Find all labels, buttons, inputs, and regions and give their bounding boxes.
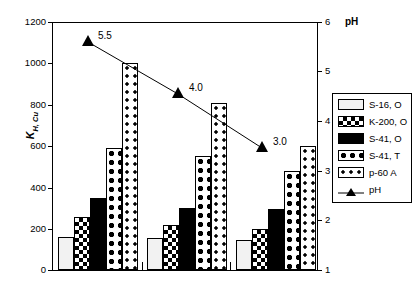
right-tick-2 — [318, 220, 322, 221]
white-swatch — [338, 99, 364, 110]
bar-group3-s41o — [268, 209, 284, 270]
group-separator-2 — [230, 262, 231, 271]
left-tick-label-1000: 1000 — [8, 58, 46, 68]
legend-label-s41t: S-41, T — [369, 150, 400, 161]
left-tick-600 — [48, 146, 52, 147]
chart-canvas: 1200 1000 800 600 400 200 0 KH, Cu 6 5 4… — [0, 0, 415, 295]
bar-group3-k200o — [252, 229, 268, 270]
bar-group1-s41t — [106, 148, 122, 270]
bar-group1-k200o — [74, 217, 90, 270]
ph-value-label-1: 5.5 — [98, 30, 112, 41]
left-tick-800 — [48, 105, 52, 106]
bar-group1-s16o — [58, 237, 74, 270]
left-axis-title-sub: H, Cu — [31, 112, 40, 132]
ph-value-label-3: 3.0 — [273, 136, 287, 147]
legend-item-s16o: S-16, O — [338, 98, 402, 111]
right-tick-6 — [318, 22, 322, 23]
bar-group2-s41t — [195, 156, 211, 270]
legend-item-s41t: S-41, T — [338, 149, 400, 162]
bottom-axis-line — [52, 270, 318, 271]
bar-group3-s16o — [236, 240, 252, 270]
legend-label-k200o: K-200, O — [369, 116, 407, 127]
legend-label-ph: pH — [369, 184, 381, 195]
left-tick-0 — [48, 270, 52, 271]
right-tick-label-1: 1 — [325, 265, 345, 275]
ph-marker-2 — [172, 87, 184, 98]
right-tick-label-5: 5 — [325, 66, 345, 76]
bar-group2-s16o — [147, 238, 163, 270]
top-frame-line — [52, 22, 318, 23]
right-tick-4 — [318, 121, 322, 122]
legend-label-s41o: S-41, O — [369, 133, 402, 144]
legend-label-s16o: S-16, O — [369, 99, 402, 110]
left-tick-label-0: 0 — [8, 265, 46, 275]
solid-black-swatch — [338, 133, 364, 144]
left-tick-label-400: 400 — [8, 183, 46, 193]
bar-group1-p60a — [122, 63, 138, 270]
legend-item-ph: pH — [338, 183, 381, 196]
left-axis-title: KH, Cu — [24, 81, 39, 171]
ph-marker-1 — [82, 35, 94, 46]
left-axis-line — [52, 22, 53, 271]
left-tick-1000 — [48, 63, 52, 64]
group-separator-1 — [142, 262, 143, 271]
bar-group1-s41o — [90, 198, 106, 270]
left-tick-label-1200: 1200 — [8, 17, 46, 27]
right-tick-label-6: 6 — [325, 17, 345, 27]
legend-box: S-16, O K-200, O S-41, O S-41, T p-60 A — [332, 93, 412, 203]
left-tick-1200 — [48, 22, 52, 23]
left-tick-label-200: 200 — [8, 224, 46, 234]
ph-value-label-2: 4.0 — [189, 82, 203, 93]
bar-group3-s41t — [284, 171, 300, 270]
legend-item-k200o: K-200, O — [338, 115, 407, 128]
legend-label-p60a: p-60 A — [369, 167, 396, 178]
right-tick-1 — [318, 270, 322, 271]
checker-swatch — [338, 116, 364, 127]
left-axis-title-main: K — [24, 132, 36, 140]
ph-polyline — [88, 42, 262, 148]
left-tick-200 — [48, 229, 52, 230]
bar-group2-p60a — [211, 103, 227, 270]
right-tick-5 — [318, 71, 322, 72]
small-dot-swatch — [338, 167, 364, 178]
right-axis-line — [317, 22, 318, 271]
bar-group2-k200o — [163, 225, 179, 270]
left-tick-400 — [48, 188, 52, 189]
legend-item-s41o: S-41, O — [338, 132, 402, 145]
right-tick-3 — [318, 171, 322, 172]
legend-item-p60a: p-60 A — [338, 166, 396, 179]
bar-group2-s41o — [179, 208, 195, 270]
big-dot-swatch — [338, 150, 364, 161]
right-axis-title: pH — [345, 16, 358, 27]
right-tick-label-2: 2 — [325, 215, 345, 225]
ph-marker-3 — [256, 141, 268, 152]
bar-group3-p60a — [300, 146, 316, 270]
triangle-line-swatch — [338, 184, 364, 195]
